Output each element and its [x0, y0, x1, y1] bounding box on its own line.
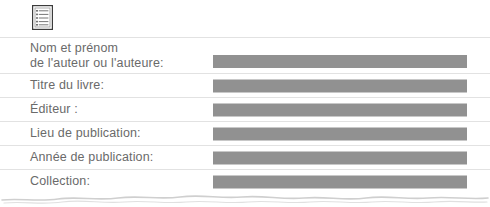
label-year-of-publication: Année de publication: [30, 146, 210, 169]
label-line: Année de publication: [30, 150, 210, 165]
label-publisher: Éditeur : [30, 98, 210, 121]
redacted-value-place-of-publication[interactable] [213, 127, 467, 140]
redacted-value-year-of-publication[interactable] [213, 151, 467, 164]
label-line: de l'auteur ou l'auteure: [30, 56, 210, 71]
label-line: Titre du livre: [30, 78, 210, 93]
redacted-value-book-title[interactable] [213, 79, 467, 92]
label-collection: Collection: [30, 170, 210, 193]
label-line: Lieu de publication: [30, 126, 210, 141]
label-book-title: Titre du livre: [30, 74, 210, 97]
label-line: Éditeur : [30, 102, 210, 117]
redacted-value-collection[interactable] [213, 175, 467, 188]
label-author-name: Nom et prénom de l'auteur ou l'auteure: [30, 38, 210, 73]
redacted-value-author-name[interactable] [213, 55, 467, 68]
form-row-collection: Collection: [0, 169, 490, 193]
document-lines-icon [32, 5, 53, 30]
form-rows: Nom et prénom de l'auteur ou l'auteure: … [0, 37, 490, 193]
label-line: Collection: [30, 174, 210, 189]
form-row-publisher: Éditeur : [0, 97, 490, 121]
redacted-value-publisher[interactable] [213, 103, 467, 116]
form-row-place-of-publication: Lieu de publication: [0, 121, 490, 145]
form-row-author-name: Nom et prénom de l'auteur ou l'auteure: [0, 37, 490, 73]
form-header [0, 0, 490, 37]
form-row-book-title: Titre du livre: [0, 73, 490, 97]
label-place-of-publication: Lieu de publication: [30, 122, 210, 145]
label-line: Nom et prénom [30, 41, 210, 56]
worksheet-form: Nom et prénom de l'auteur ou l'auteure: … [0, 0, 490, 207]
form-row-year-of-publication: Année de publication: [0, 145, 490, 169]
